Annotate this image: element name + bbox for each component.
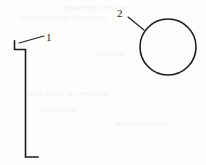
bracket-profile [15, 41, 39, 157]
callout-label-2: 2 [117, 8, 123, 19]
leader-line-1 [19, 36, 44, 43]
circle-profile [140, 19, 196, 75]
callout-label-1: 1 [46, 32, 52, 43]
leader-line-2 [128, 17, 144, 30]
figure-canvas: диаметр детали соединения профиль поверх… [0, 0, 206, 165]
line-art-svg [0, 0, 206, 165]
